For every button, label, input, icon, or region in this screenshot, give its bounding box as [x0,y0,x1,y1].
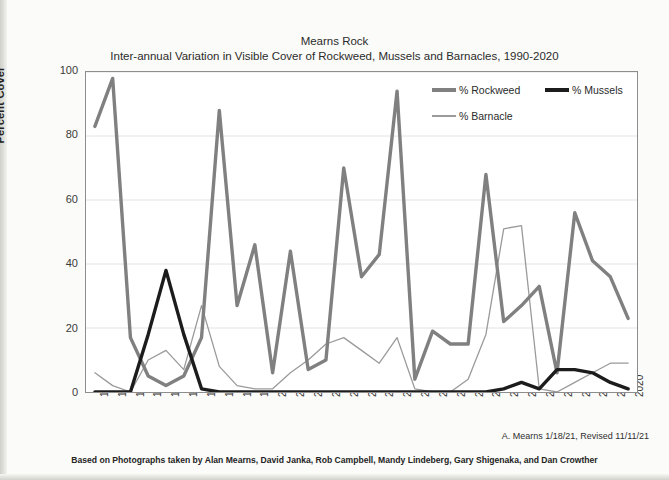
y-tick-label: 40 [44,257,78,269]
y-axis-title: Percent Cover [0,40,6,170]
source-note: Based on Photographs taken by Alan Mearn… [0,455,669,465]
legend-item-mussels[interactable]: % Mussels [545,84,623,96]
y-tick-label: 100 [44,64,78,76]
legend-item-barnacle[interactable]: % Barnacle [432,110,513,122]
y-tick-label: 0 [44,386,78,398]
credit-annotation: A. Mearns 1/18/21, Revised 11/11/21 [0,431,649,441]
legend-label-mussels: % Mussels [572,84,623,96]
chart-subtitle: Inter-annual Variation in Visible Cover … [0,49,669,64]
legend-swatch-barnacle-icon [432,115,456,117]
y-tick-label: 80 [44,128,78,140]
y-tick-label: 60 [44,193,78,205]
legend-swatch-mussels-icon [545,88,569,92]
legend-label-rockweed: % Rockweed [459,84,520,96]
chart-legend: % Rockweed % Mussels % Barnacle [432,82,638,134]
chart-title: Mearns Rock [0,34,669,49]
legend-label-barnacle: % Barnacle [459,110,513,122]
legend-item-rockweed[interactable]: % Rockweed [432,84,520,96]
series-line-barnacle [95,226,628,392]
y-tick-label: 20 [44,322,78,334]
paper-edge-bottom [0,474,669,480]
legend-swatch-rockweed-icon [432,88,456,92]
